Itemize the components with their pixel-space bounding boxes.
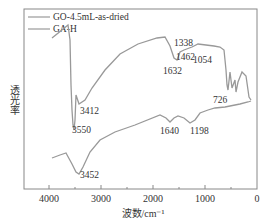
svg-text:1054: 1054 (193, 55, 212, 65)
svg-text:1198: 1198 (190, 126, 209, 136)
svg-text:1640: 1640 (160, 126, 179, 136)
x-ticks (49, 185, 231, 189)
x-tick-labels: 4000 3000 2000 1000 0 (39, 193, 260, 204)
svg-text:3452: 3452 (80, 170, 99, 180)
svg-text:1632: 1632 (163, 66, 182, 76)
svg-text:2000: 2000 (143, 193, 163, 204)
legend-go: GO-4.5mL-as-dried (53, 12, 129, 22)
svg-text:1000: 1000 (195, 193, 215, 204)
svg-text:0: 0 (255, 193, 260, 204)
ftir-chart: 4000 3000 2000 1000 0 波数/cm⁻¹ 透光率 GO-4.5… (0, 0, 266, 224)
peak-labels: 3412 3550 1632 1338 1462 1054 726 3452 1… (72, 38, 228, 180)
svg-text:726: 726 (213, 95, 228, 105)
svg-text:4000: 4000 (39, 193, 59, 204)
legend-gah: GA-H (53, 24, 77, 34)
svg-text:1338: 1338 (174, 38, 193, 48)
svg-text:3000: 3000 (91, 193, 111, 204)
svg-text:3550: 3550 (72, 125, 91, 135)
svg-text:3412: 3412 (80, 106, 99, 116)
x-axis-label: 波数/cm⁻¹ (122, 207, 165, 219)
y-axis-label: 透光率 (9, 85, 20, 116)
